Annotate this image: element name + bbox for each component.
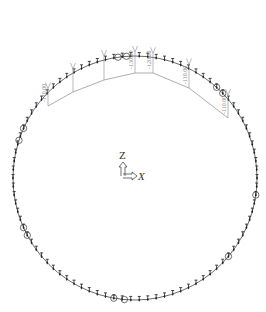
node-marker — [254, 158, 257, 163]
load-arrow — [102, 50, 107, 80]
load-envelope — [48, 73, 228, 118]
node-marker — [253, 200, 256, 205]
load-arrow — [71, 63, 76, 92]
load-value-label: -110.00 — [41, 84, 47, 102]
node-marker — [256, 175, 259, 180]
z-axis-label: Z — [119, 149, 126, 161]
node-marker — [104, 293, 107, 298]
node-marker — [13, 158, 16, 163]
load-value-label: -110.00 — [182, 66, 188, 84]
node-marker — [12, 183, 15, 188]
node-marker — [155, 54, 158, 59]
ring-load-diagram: -110.00-130.00-120.00-110.00-110.00 Z X — [0, 0, 266, 312]
node-marker — [129, 296, 132, 301]
load-value-label: -110.00 — [221, 96, 227, 114]
node-marker — [255, 183, 258, 188]
node-marker — [12, 166, 15, 171]
node-marker — [255, 166, 258, 171]
node-marker — [155, 295, 158, 300]
x-axis-label: X — [137, 170, 146, 182]
load-value-label: -120.00 — [146, 51, 152, 70]
node-marker — [13, 191, 16, 196]
node-marker — [138, 296, 141, 301]
diagram-canvas: -110.00-130.00-120.00-110.00-110.00 Z X — [0, 0, 266, 312]
node-marker — [12, 175, 15, 180]
axis-indicator: Z X — [119, 149, 146, 182]
load-value-label: -130.00 — [128, 51, 134, 70]
node-marker — [163, 56, 166, 61]
node-marker — [104, 56, 107, 61]
node-marker — [14, 200, 17, 205]
node-marker — [146, 296, 149, 301]
node-marker — [253, 149, 256, 154]
node-marker — [138, 53, 141, 58]
load-distribution: -110.00-130.00-120.00-110.00-110.00 — [41, 46, 231, 118]
node-marker — [14, 149, 17, 154]
node-marker — [163, 293, 166, 298]
